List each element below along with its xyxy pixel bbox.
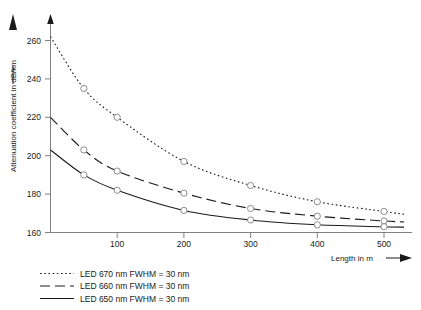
y-tick-label-2: 200 [27, 151, 41, 161]
y-tick-label-3: 220 [27, 112, 41, 122]
y-tick-label-1: 180 [27, 189, 41, 199]
chart-svg: 160 180 200 220 240 260 100 200 300 400 … [0, 0, 421, 310]
x-tick-label-2: 300 [244, 239, 258, 249]
data-point-marker [81, 147, 87, 153]
data-point-marker [114, 114, 120, 120]
data-point-marker [314, 213, 320, 219]
legend-label-2: LED 650 nm FWHM = 30 nm [80, 294, 189, 304]
y-tick-label-5: 260 [27, 36, 41, 46]
data-point-marker [381, 218, 387, 224]
data-point-marker [181, 158, 187, 164]
x-axis-label: Length in m [331, 254, 373, 263]
data-point-marker [248, 217, 254, 223]
chart-legend: LED 670 nm FWHM = 30 nm LED 660 nm FWHM … [40, 269, 189, 304]
legend-label-1: LED 660 nm FWHM = 30 nm [80, 281, 189, 291]
data-point-marker [381, 208, 387, 214]
y-tick-label-4: 240 [27, 74, 41, 84]
data-point-marker [314, 199, 320, 205]
x-tick-label-0: 100 [110, 239, 124, 249]
data-point-marker [114, 187, 120, 193]
x-tick-label-3: 400 [310, 239, 324, 249]
data-point-marker [81, 172, 87, 178]
data-point-marker [248, 205, 254, 211]
x-tick-label-1: 200 [177, 239, 191, 249]
y-tick-label-0: 160 [27, 228, 41, 238]
data-point-marker [114, 168, 120, 174]
legend-label-0: LED 670 nm FWHM = 30 nm [80, 269, 189, 279]
chart-figure: 160 180 200 220 240 260 100 200 300 400 … [0, 0, 421, 310]
x-tick-label-4: 500 [377, 239, 391, 249]
data-point-marker [381, 224, 387, 230]
data-point-marker [248, 182, 254, 188]
data-point-marker [181, 190, 187, 196]
data-point-marker [81, 85, 87, 91]
chart-background [0, 0, 421, 310]
data-point-marker [181, 207, 187, 213]
data-point-marker [314, 222, 320, 228]
